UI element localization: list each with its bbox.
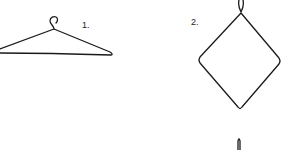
hanger-1-body bbox=[0, 29, 112, 55]
hanger-1-hook bbox=[50, 17, 58, 29]
illustration bbox=[0, 0, 292, 150]
hanger-3-partial-loop bbox=[238, 139, 240, 150]
hanger-2-hook bbox=[239, 0, 244, 12]
hanger-2-diamond-shape bbox=[199, 13, 280, 109]
figure-label-1: 1. bbox=[82, 20, 90, 30]
hanger-2-diamond bbox=[199, 0, 280, 109]
figure-label-2: 2. bbox=[191, 17, 199, 27]
hanger-1 bbox=[0, 17, 112, 55]
